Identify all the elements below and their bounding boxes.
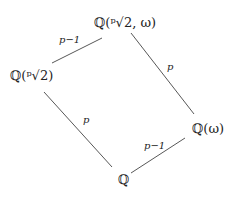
node-right: ℚ(ω) (192, 122, 224, 135)
edge-label-left-top: p−1 (59, 35, 80, 45)
edge-bottom-left (44, 92, 112, 167)
edge-right-top (131, 33, 194, 114)
edges-layer (0, 0, 233, 217)
edge-label-right-top: p (167, 62, 173, 72)
node-left: ℚ(ᵖ√2) (10, 69, 53, 82)
edge-label-bottom-right: p−1 (144, 141, 165, 151)
edge-label-bottom-left: p (83, 115, 89, 125)
node-bottom: ℚ (118, 173, 129, 186)
node-top: ℚ(ᵖ√2, ω) (94, 16, 156, 29)
